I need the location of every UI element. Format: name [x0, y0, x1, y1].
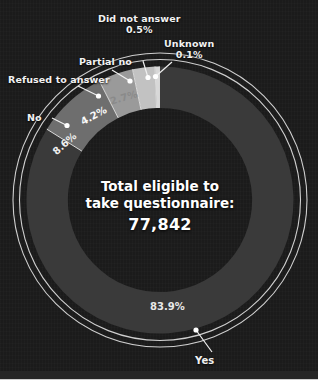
- callout-did-not-answer-label: Did not answer: [98, 13, 181, 24]
- center-line-2: take questionnaire:: [59, 195, 261, 212]
- partial-no-dot: [127, 78, 132, 83]
- callout-did-not-answer: Did not answer 0.5%: [98, 14, 181, 35]
- callout-refused-to-answer: Refused to answer: [8, 75, 110, 86]
- did-not-answer-dot: [145, 75, 150, 80]
- callout-yes: Yes: [195, 355, 214, 366]
- center-annotation: Total eligible to take questionnaire: 77…: [59, 178, 261, 237]
- unknown-dot: [153, 74, 158, 79]
- yes-dot: [193, 327, 198, 332]
- center-total-value: 77,842: [59, 213, 261, 237]
- callout-did-not-answer-value: 0.5%: [126, 24, 153, 35]
- slice-value-yes: 83.9%: [150, 302, 185, 312]
- callout-unknown: Unknown 0.1%: [164, 39, 214, 60]
- callout-unknown-label: Unknown: [164, 38, 214, 49]
- callout-no: No: [27, 113, 42, 124]
- no-dot: [64, 123, 69, 128]
- center-line-1: Total eligible to: [59, 178, 261, 195]
- callout-unknown-value: 0.1%: [176, 49, 203, 60]
- refused-dot: [96, 93, 101, 98]
- callout-partial-no: Partial no: [79, 57, 132, 68]
- chart-canvas: Refused to answer No Partial no Did not …: [0, 0, 318, 380]
